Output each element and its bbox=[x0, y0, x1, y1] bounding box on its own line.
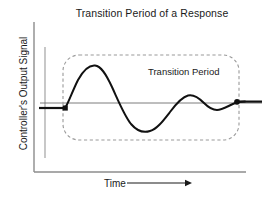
step-start-marker bbox=[63, 105, 68, 110]
settled-point-marker bbox=[234, 99, 240, 105]
y-axis-label: Controller's Output Signal bbox=[18, 19, 29, 169]
figure-container: Transition Period of a Response Controll… bbox=[0, 0, 269, 198]
time-arrow-head bbox=[185, 180, 192, 186]
transition-period-label: Transition Period bbox=[148, 66, 219, 77]
plot-canvas bbox=[0, 0, 269, 198]
x-axis-label: Time bbox=[104, 178, 126, 189]
chart-title: Transition Period of a Response bbox=[46, 7, 258, 19]
